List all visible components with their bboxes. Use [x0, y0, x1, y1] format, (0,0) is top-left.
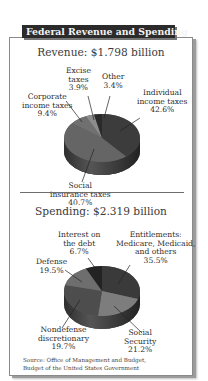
label-excise-taxes: Excise taxes 3.9%	[66, 67, 91, 93]
spending-pie	[64, 266, 140, 329]
label-defense: Defense 19.5%	[36, 258, 67, 275]
spending-title: Spending: $2.319 billion	[10, 205, 192, 217]
revenue-pie	[64, 114, 140, 175]
chart-banner-title: Federal Revenue and Spending	[22, 25, 175, 38]
label-other: Other 3.4%	[102, 73, 124, 90]
label-social-security: Social Security 21.2%	[124, 329, 156, 355]
label-interest-on-debt: Interest on the debt 6.7%	[58, 231, 100, 257]
chart-frame: Revenue: $1.798 billion	[9, 37, 193, 376]
label-entitlements: Entitlements: Medicare, Medicaid, and ot…	[116, 231, 195, 265]
source-note: Source: Office of Management and Budget,…	[23, 356, 146, 372]
section-divider	[20, 192, 184, 193]
label-nondefense-discretionary: Nondefense discretionary 19.7%	[38, 326, 89, 352]
label-corporate-income-taxes: Corporate income taxes 9.4%	[22, 93, 73, 119]
label-individual-income-taxes: Individual income taxes 42.6%	[137, 89, 188, 115]
label-social-insurance-taxes: Social insurance taxes 40.7%	[50, 182, 111, 208]
